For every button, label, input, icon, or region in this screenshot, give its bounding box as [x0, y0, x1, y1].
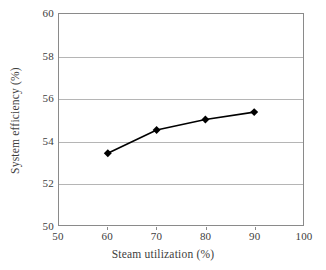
- chart-figure: 505254565860 5060708090100 Steam utiliza…: [0, 0, 326, 270]
- x-axis-tick-mark: [206, 227, 207, 230]
- x-axis-tick-label: 50: [38, 231, 78, 242]
- data-layer: [59, 14, 303, 225]
- x-axis-tick-mark: [255, 227, 256, 230]
- y-axis-tick-label: 60: [28, 8, 54, 19]
- data-point-marker: [153, 126, 161, 134]
- x-axis-tick-mark: [156, 227, 157, 230]
- x-axis-tick-label: 100: [284, 231, 324, 242]
- plot-area: [58, 13, 304, 226]
- x-axis-tick-labels: 5060708090100: [0, 231, 326, 245]
- x-axis-tick-label: 60: [87, 231, 127, 242]
- data-point-marker: [250, 108, 258, 116]
- x-axis-tick-label: 80: [186, 231, 226, 242]
- y-axis-tick-label: 52: [28, 178, 54, 189]
- y-axis-tick-labels: 505254565860: [26, 0, 54, 270]
- x-axis-tick-mark: [107, 227, 108, 230]
- y-axis-title-wrapper: System efficiency (%): [6, 0, 24, 240]
- x-axis-tick-label: 90: [235, 231, 275, 242]
- x-axis-title: Steam utilization (%): [0, 248, 326, 261]
- x-axis-tick-label: 70: [136, 231, 176, 242]
- y-axis-title: System efficiency (%): [9, 67, 22, 174]
- data-point-marker: [201, 116, 209, 124]
- data-point-marker: [104, 149, 112, 157]
- y-axis-tick-label: 54: [28, 136, 54, 147]
- series-line: [108, 112, 254, 153]
- y-axis-tick-label: 56: [28, 93, 54, 104]
- y-axis-tick-label: 58: [28, 51, 54, 62]
